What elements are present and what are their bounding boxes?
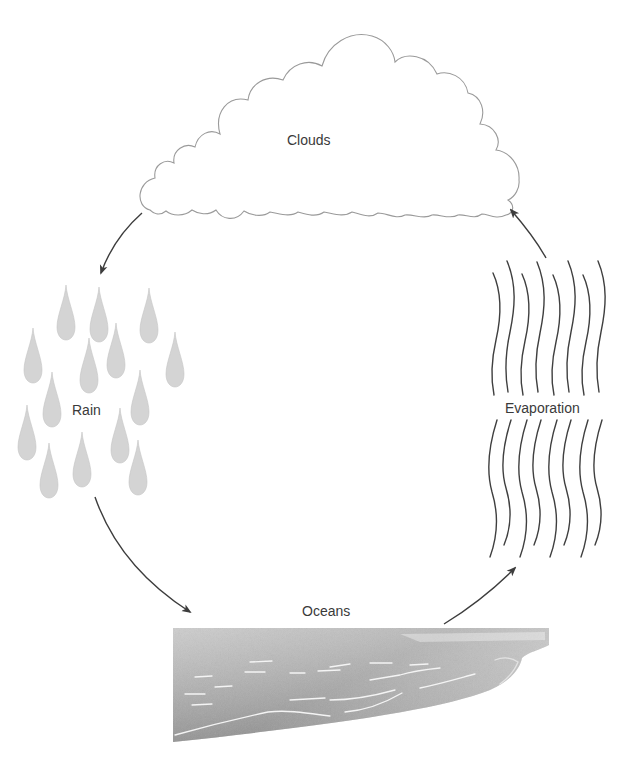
raindrop <box>140 288 158 343</box>
evaporation-waves <box>492 261 605 395</box>
arrow-evaporation-to-clouds <box>511 210 546 258</box>
raindrop <box>111 408 129 463</box>
raindrop <box>129 440 147 495</box>
arrow-clouds-to-rain <box>101 213 142 273</box>
flow-arrows <box>95 210 546 624</box>
raindrop <box>40 443 58 498</box>
raindrop <box>18 405 36 460</box>
label-clouds: Clouds <box>287 133 331 147</box>
raindrop <box>57 285 75 340</box>
arrow-oceans-to-evaporation <box>444 568 515 624</box>
raindrop <box>73 432 91 487</box>
raindrop <box>90 287 108 342</box>
raindrop <box>43 372 61 427</box>
raindrop <box>107 323 125 378</box>
raindrops <box>18 285 184 498</box>
evaporation-waves-lower <box>489 420 602 557</box>
ocean-shape <box>173 628 549 742</box>
water-cycle-diagram <box>0 0 635 765</box>
raindrop <box>131 370 149 425</box>
raindrop <box>166 332 184 387</box>
raindrop <box>24 328 42 383</box>
cloud-shape <box>140 35 519 219</box>
label-oceans: Oceans <box>302 604 350 618</box>
arrow-rain-to-oceans <box>95 497 190 612</box>
raindrop <box>80 338 98 393</box>
label-evaporation: Evaporation <box>503 401 582 415</box>
label-rain: Rain <box>72 403 101 417</box>
